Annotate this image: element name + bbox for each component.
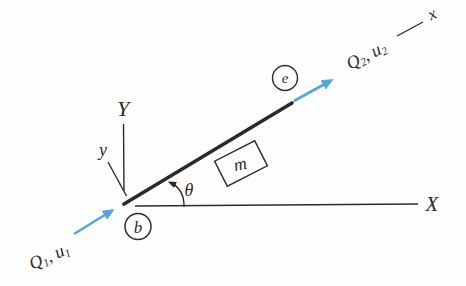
- global-X-label: X: [426, 194, 439, 215]
- global-x-axis-line: [135, 204, 418, 206]
- theta-label: θ: [185, 181, 194, 199]
- node-b-label: b: [134, 219, 143, 236]
- global-y-axis-line: [124, 124, 125, 191]
- node-e-label: e: [282, 71, 289, 86]
- local-x-axis-line: [397, 22, 423, 36]
- theta-arc: [170, 183, 184, 208]
- global-Y-label: Y: [117, 98, 129, 120]
- bar-element: [124, 103, 292, 204]
- diagram-geometry: [0, 0, 466, 286]
- local-y-label: y: [99, 141, 107, 159]
- force-arrow-q1: [74, 211, 112, 235]
- figure-canvas: Y y X x θ m b e Q1, u1 Q2, u2: [0, 0, 466, 286]
- force-arrow-q2: [294, 81, 331, 102]
